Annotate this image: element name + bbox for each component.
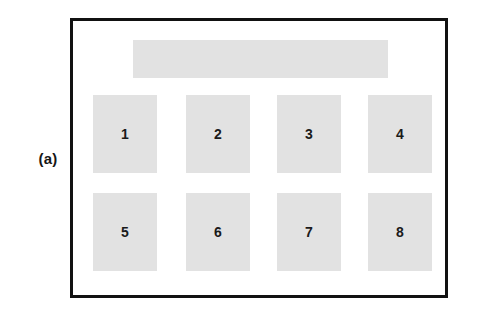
block-8-label: 8 bbox=[368, 224, 432, 240]
block-3-label: 3 bbox=[277, 126, 341, 142]
panel-label: (a) bbox=[26, 150, 70, 168]
header-band bbox=[133, 40, 388, 78]
block-1-label: 1 bbox=[93, 126, 157, 142]
diagram-frame-inner: 1 2 3 4 5 6 7 8 bbox=[73, 21, 445, 295]
block-8: 8 bbox=[368, 193, 432, 271]
block-1: 1 bbox=[93, 95, 157, 173]
block-3: 3 bbox=[277, 95, 341, 173]
block-7-label: 7 bbox=[277, 224, 341, 240]
block-6-label: 6 bbox=[186, 224, 250, 240]
block-2: 2 bbox=[186, 95, 250, 173]
block-4: 4 bbox=[368, 95, 432, 173]
block-4-label: 4 bbox=[368, 126, 432, 142]
block-5: 5 bbox=[93, 193, 157, 271]
block-5-label: 5 bbox=[93, 224, 157, 240]
figure-root: (a) 1 2 3 4 5 6 7 bbox=[0, 0, 477, 315]
block-6: 6 bbox=[186, 193, 250, 271]
block-7: 7 bbox=[277, 193, 341, 271]
diagram-frame: 1 2 3 4 5 6 7 8 bbox=[70, 18, 448, 298]
block-2-label: 2 bbox=[186, 126, 250, 142]
